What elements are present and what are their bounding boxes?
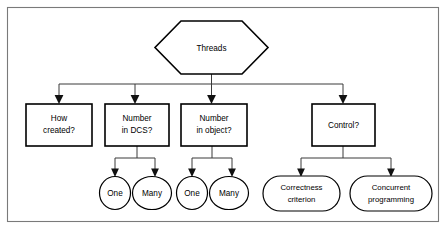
node-how-created-label-line2: created? [43,126,75,135]
connector-group-number-in-dcs [111,146,159,177]
node-correctness-criterion-label-line1: Correctness [280,183,322,192]
arrowhead-many-object [228,169,236,178]
node-number-in-object-label-line2: in object? [196,126,231,135]
arrowhead-one-object [188,169,196,178]
arrowhead-number-in-object [207,95,216,104]
arrowhead-many-dcs [151,169,159,178]
arrowhead-how-created [55,95,64,104]
node-concurrent-programming-label-line1: Concurrent [372,183,411,192]
connector-group-control [297,146,395,177]
node-concurrent-programming-label-line2: programming [368,195,414,204]
arrowhead-number-in-dcs [131,95,140,104]
node-number-in-dcs[interactable]: Number in DCS? [105,104,169,146]
node-number-in-object-label-line1: Number [199,114,228,123]
node-many-dcs[interactable]: Many [133,177,172,210]
node-control-label: Control? [328,121,359,130]
node-number-in-dcs-label-line2: in DCS? [122,126,153,135]
node-many-dcs-label: Many [142,189,163,198]
threads-taxonomy-diagram: Threads How created? Number in DCS? Numb… [0,0,446,229]
node-how-created[interactable]: How created? [26,104,92,146]
node-threads-label: Threads [196,44,226,53]
node-number-in-object[interactable]: Number in object? [181,104,247,146]
node-one-dcs[interactable]: One [100,177,131,210]
node-one-object[interactable]: One [177,177,208,210]
rect-shape [26,104,92,146]
node-one-dcs-label: One [107,189,123,198]
diagram-canvas: Threads How created? Number in DCS? Numb… [0,0,446,229]
connector-group-number-in-object [188,146,236,177]
arrowhead-one-dcs [111,169,119,178]
node-many-object-label: Many [219,189,240,198]
node-how-created-label-line1: How [51,114,67,123]
node-threads[interactable]: Threads [155,21,268,74]
node-control[interactable]: Control? [312,104,375,146]
stadium-shape [263,176,340,211]
node-correctness-criterion-label-line2: criterion [288,195,316,204]
arrowhead-control [339,95,348,104]
node-one-object-label: One [184,189,200,198]
stadium-shape [350,176,432,211]
node-many-object[interactable]: Many [210,177,249,210]
rect-shape [181,104,247,146]
rect-shape [105,104,169,146]
node-correctness-criterion[interactable]: Correctness criterion [263,176,340,211]
node-concurrent-programming[interactable]: Concurrent programming [350,176,432,211]
node-number-in-dcs-label-line1: Number [122,114,151,123]
connector-group-root [55,74,348,104]
